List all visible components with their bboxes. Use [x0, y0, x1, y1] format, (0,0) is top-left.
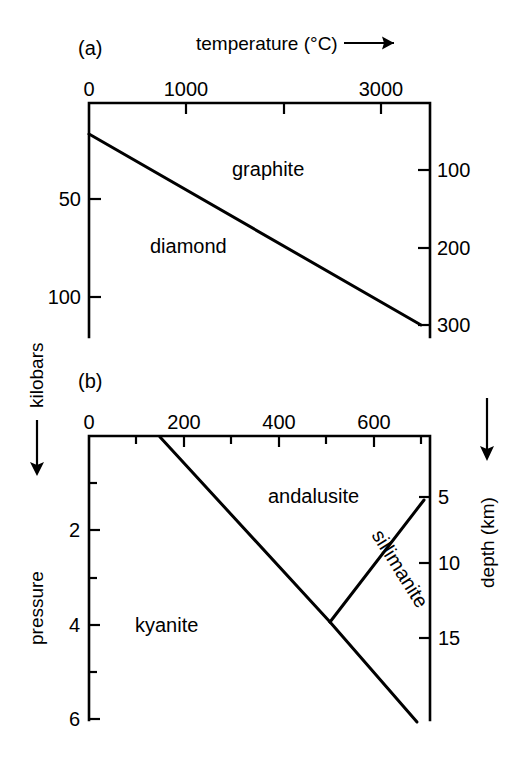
- panel-b-ytick-6: 6: [69, 708, 80, 730]
- panel-b: (b) 0 200 400 600 2 4: [69, 370, 460, 730]
- panel-b-y2tick-5: 5: [438, 486, 449, 508]
- field-label-diamond: diamond: [150, 235, 227, 257]
- left-axis-title-group: pressure kilobars: [26, 343, 47, 645]
- phase-diagram-figure: (a) temperature (°C) 0 1000 3000 50: [0, 0, 521, 768]
- panel-b-y2tick-15: 15: [438, 627, 460, 649]
- field-label-andalusite: andalusite: [268, 485, 359, 507]
- panel-a-y2tick-100: 100: [437, 159, 470, 181]
- phase-diagram-svg: (a) temperature (°C) 0 1000 3000 50: [0, 0, 521, 768]
- panel-a-xtick-0: 0: [83, 78, 94, 100]
- panel-b-xtick-200: 200: [167, 411, 200, 433]
- right-axis-title-group: depth (km): [477, 398, 498, 588]
- panel-a-ytick-100: 100: [48, 286, 81, 308]
- left-axis-title-pressure: pressure: [26, 571, 47, 645]
- panel-a-y2tick-200: 200: [437, 237, 470, 259]
- panel-a: (a) temperature (°C) 0 1000 3000 50: [48, 33, 471, 337]
- panel-b-ytick-4: 4: [69, 614, 80, 636]
- panel-b-y2tick-10: 10: [438, 552, 460, 574]
- panel-b-label: (b): [78, 370, 102, 392]
- right-axis-title-depth: depth (km): [477, 497, 498, 588]
- pressure-arrow-icon: [30, 420, 44, 476]
- field-label-graphite: graphite: [232, 158, 304, 180]
- panel-a-top-axis-title: temperature (°C): [196, 33, 338, 54]
- panel-b-xtick-600: 600: [357, 411, 390, 433]
- panel-a-xtick-1000: 1000: [164, 78, 209, 100]
- left-axis-title-kilobars: kilobars: [26, 343, 47, 408]
- field-label-sillimanite: sillimanite: [368, 525, 433, 611]
- depth-arrow-icon: [480, 398, 494, 461]
- panel-a-label: (a): [78, 37, 102, 59]
- panel-b-ytick-2: 2: [69, 519, 80, 541]
- field-label-kyanite: kyanite: [135, 614, 198, 636]
- temperature-arrow-icon: [344, 37, 394, 50]
- panel-b-xtick-400: 400: [262, 411, 295, 433]
- kyanite-andalusite-boundary-line: [160, 437, 330, 622]
- panel-b-xtick-0: 0: [83, 411, 94, 433]
- panel-a-xtick-3000: 3000: [359, 78, 404, 100]
- kyanite-sillimanite-boundary-line: [330, 622, 417, 722]
- panel-a-ytick-50: 50: [59, 188, 81, 210]
- panel-a-y2tick-300: 300: [437, 314, 470, 336]
